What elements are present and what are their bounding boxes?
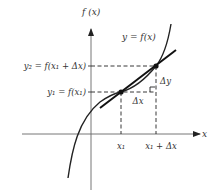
point-x1 [118,89,123,94]
delta-y-label: Δy [159,76,171,86]
x-axis-label: x [202,129,207,139]
right-angle-marker [150,87,155,92]
curve-label: y = f(x) [121,32,156,42]
secant-diagram: f (x) x y = f(x) y₂ = f(x₁ + Δx) y₁ = f(… [0,0,215,195]
point-x1-plus-dx [153,63,158,68]
delta-x-label: Δx [132,96,144,106]
x1-label: x₁ [117,141,125,151]
y2-label: y₂ = f(x₁ + Δx) [23,61,86,71]
y1-label: y₁ = f(x₁) [46,87,86,97]
y-axis-label: f (x) [81,7,101,17]
x1-plus-dx-label: x₁ + Δx [145,141,177,151]
